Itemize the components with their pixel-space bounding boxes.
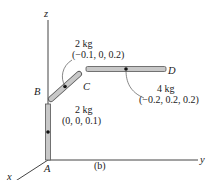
rod-ab-mass: 2 kg bbox=[75, 104, 93, 115]
rod-bc-centroid: (−0.1, 0, 0.2) bbox=[72, 49, 124, 61]
point-b-label: B bbox=[34, 86, 41, 97]
rod-bc-mass: 2 kg bbox=[75, 38, 93, 49]
rod-ab-centroid: (0, 0, 0.1) bbox=[62, 115, 101, 127]
point-a-label: A bbox=[43, 163, 51, 174]
point-d-label: D bbox=[167, 65, 176, 76]
centroid-ab-dot bbox=[46, 130, 50, 134]
rod-cd-centroid: (−0.2, 0.2, 0.2) bbox=[139, 94, 199, 106]
x-axis-label: x bbox=[6, 171, 12, 180]
centroid-bc-dot bbox=[63, 85, 67, 89]
x-axis bbox=[14, 160, 48, 180]
point-c-label: C bbox=[83, 81, 91, 92]
figure-label: (b) bbox=[94, 160, 106, 172]
z-axis-label: z bbox=[43, 8, 48, 19]
rod-cd-mass: 4 kg bbox=[157, 83, 175, 94]
y-axis-label: y bbox=[199, 154, 205, 165]
rod-assembly-diagram: z y x A B C D 2 kg (−0.1, 0, 0.2) 4 kg (… bbox=[0, 0, 214, 180]
